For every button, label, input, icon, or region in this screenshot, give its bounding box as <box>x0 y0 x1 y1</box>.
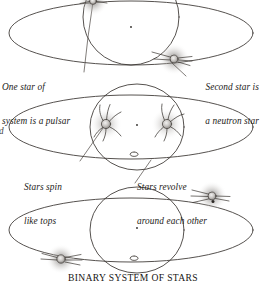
spinning-star-left <box>80 105 122 162</box>
top-orbit-center-dot <box>130 26 132 28</box>
figure-title: BINARY SYSTEM OF STARS <box>68 272 198 283</box>
spin-leader-line <box>80 128 103 161</box>
label-pulsar: One star of system is a pulsar <box>2 60 70 150</box>
label-pulsar-line1: One star of <box>2 82 70 93</box>
neutron-star <box>152 43 192 76</box>
label-spin-line2: like tops <box>24 216 62 227</box>
label-pulsar-line2: system is a pulsar <box>2 116 70 127</box>
spinning-star-right <box>151 104 184 141</box>
bottom-orbit-node <box>130 256 138 260</box>
label-neutron-star-line1: Second star is <box>205 82 259 93</box>
label-revolve-line1: Stars revolve <box>137 182 207 193</box>
top-horizontal-orbit <box>9 1 253 65</box>
label-revolve: Stars revolve around each other <box>137 160 207 250</box>
figure-canvas: One star of system is a pulsar Second st… <box>0 0 262 283</box>
pulsar-star <box>78 0 108 16</box>
label-neutron-star-line2: a neutron star <box>205 116 259 127</box>
label-spin-line1: Stars spin <box>24 182 62 193</box>
clipped-left-glyph: d <box>0 126 4 136</box>
label-revolve-line2: around each other <box>137 216 207 227</box>
middle-orbit-node <box>130 152 138 156</box>
middle-orbit-center-dot <box>136 124 138 126</box>
label-spin: Stars spin like tops <box>24 160 62 250</box>
label-neutron-star: Second star is a neutron star <box>205 60 259 150</box>
top-panel-orbits <box>9 0 253 65</box>
